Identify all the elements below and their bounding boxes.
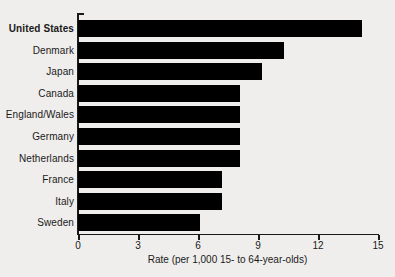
bar-row: [78, 126, 378, 148]
x-axis-tick-label: 9: [243, 240, 273, 251]
bar: [78, 20, 362, 37]
bar-row: [78, 104, 378, 126]
x-axis-tick-label: 3: [123, 240, 153, 251]
category-label: Sweden: [0, 212, 74, 234]
bar-row: [78, 169, 378, 191]
category-label: England/Wales: [0, 104, 74, 126]
plot-area: [78, 18, 378, 234]
bar: [78, 63, 262, 80]
bar: [78, 193, 222, 210]
bar-row: [78, 191, 378, 213]
category-label: Netherlands: [0, 148, 74, 170]
bar-chart-figure: Rate (per 1,000 15- to 64-year-olds) Uni…: [0, 0, 395, 277]
bar: [78, 42, 284, 59]
bar: [78, 128, 240, 145]
category-label: Japan: [0, 61, 74, 83]
bar-row: [78, 148, 378, 170]
bar-row: [78, 212, 378, 234]
category-label: United States: [0, 18, 74, 40]
bar-row: [78, 40, 378, 62]
x-axis-tick-label: 12: [303, 240, 333, 251]
category-label: Canada: [0, 83, 74, 105]
bar-row: [78, 83, 378, 105]
x-axis-line: [77, 234, 379, 236]
bar-row: [78, 61, 378, 83]
bar: [78, 85, 240, 102]
bar: [78, 106, 240, 123]
category-label: Denmark: [0, 40, 74, 62]
x-axis-title: Rate (per 1,000 15- to 64-year-olds): [0, 254, 395, 265]
bar: [78, 150, 240, 167]
bar-row: [78, 18, 378, 40]
bar: [78, 171, 222, 188]
category-label: France: [0, 169, 74, 191]
y-axis-top-cap: [77, 13, 84, 15]
category-label: Germany: [0, 126, 74, 148]
category-label: Italy: [0, 191, 74, 213]
x-axis-tick-label: 15: [363, 240, 393, 251]
x-axis-tick-label: 0: [63, 240, 93, 251]
bar: [78, 214, 200, 231]
x-axis-tick-label: 6: [183, 240, 213, 251]
